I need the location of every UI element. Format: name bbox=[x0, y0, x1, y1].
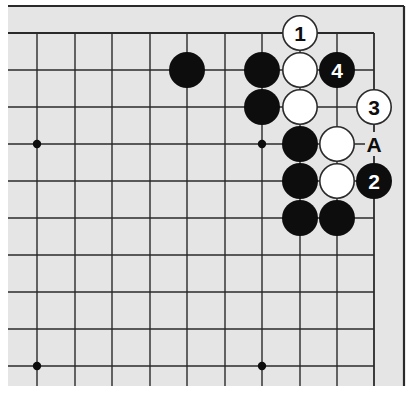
black-stone-icon bbox=[282, 200, 318, 236]
white-stone-move-1: 1 bbox=[283, 16, 317, 50]
move-number: 4 bbox=[331, 59, 343, 82]
black-stone-move-2: 2 bbox=[356, 163, 392, 199]
black-stone bbox=[282, 163, 318, 199]
black-stone-move-4: 4 bbox=[319, 52, 355, 88]
black-stone bbox=[169, 52, 205, 88]
black-stone bbox=[244, 52, 280, 88]
white-stone bbox=[283, 90, 317, 124]
star-point bbox=[258, 362, 266, 370]
move-number: 1 bbox=[294, 22, 306, 45]
white-stone-icon bbox=[320, 164, 354, 198]
white-stone-move-3: 3 bbox=[357, 90, 391, 124]
black-stone bbox=[282, 200, 318, 236]
white-stone bbox=[320, 164, 354, 198]
white-stone bbox=[320, 127, 354, 161]
black-stone-icon bbox=[282, 163, 318, 199]
go-board-diagram: A 1432 bbox=[0, 0, 411, 395]
black-stone bbox=[244, 89, 280, 125]
move-number: 3 bbox=[368, 96, 380, 119]
black-stone bbox=[319, 200, 355, 236]
black-stone-icon bbox=[169, 52, 205, 88]
white-stone-icon bbox=[283, 53, 317, 87]
star-point bbox=[33, 140, 41, 148]
white-stone-icon bbox=[320, 127, 354, 161]
black-stone-icon bbox=[244, 52, 280, 88]
black-stone-icon bbox=[319, 200, 355, 236]
star-point bbox=[33, 362, 41, 370]
black-stone-icon bbox=[244, 89, 280, 125]
point-label-a: A bbox=[366, 133, 381, 156]
white-stone bbox=[283, 53, 317, 87]
move-number: 2 bbox=[368, 170, 380, 193]
white-stone-icon bbox=[283, 90, 317, 124]
black-stone bbox=[282, 126, 318, 162]
point-labels: A bbox=[365, 132, 383, 156]
black-stone-icon bbox=[282, 126, 318, 162]
star-point bbox=[258, 140, 266, 148]
